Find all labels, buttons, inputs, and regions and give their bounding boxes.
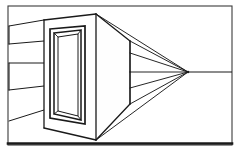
opening-recessed-back-panel [58, 34, 78, 116]
perspective-drawing-canvas [0, 0, 240, 155]
perspective-drawing-figure [0, 0, 240, 155]
vanishing-point-marker [187, 71, 190, 74]
